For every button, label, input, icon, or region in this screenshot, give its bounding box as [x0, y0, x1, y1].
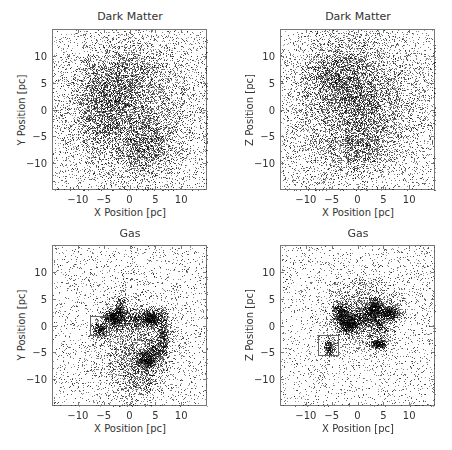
x-tick-label: −5	[324, 410, 339, 421]
y-tick-label: 5	[253, 293, 275, 304]
x-tick-mark	[383, 402, 384, 405]
x-tick-label: 0	[354, 410, 360, 421]
x-tick-mark	[181, 246, 182, 249]
y-tick-label: 5	[25, 77, 47, 88]
x-axis-title: X Position [pc]	[94, 207, 166, 218]
y-tick-mark	[431, 299, 434, 300]
x-tick-label: 5	[152, 194, 158, 205]
y-tick-label: −10	[253, 158, 275, 169]
y-tick-mark	[53, 136, 56, 137]
y-tick-mark	[203, 110, 206, 111]
x-tick-label: 0	[126, 194, 132, 205]
y-tick-mark	[431, 163, 434, 164]
y-tick-mark	[53, 163, 56, 164]
x-tick-mark	[78, 186, 79, 189]
y-tick-mark	[203, 326, 206, 327]
x-tick-label: 0	[354, 194, 360, 205]
x-tick-mark	[181, 30, 182, 33]
x-tick-mark	[130, 402, 131, 405]
y-tick-mark	[281, 110, 284, 111]
x-tick-mark	[155, 30, 156, 33]
y-tick-label: 5	[25, 293, 47, 304]
plot-area	[52, 29, 207, 190]
x-tick-mark	[358, 186, 359, 189]
y-tick-mark	[203, 379, 206, 380]
x-tick-mark	[104, 246, 105, 249]
x-tick-label: 5	[380, 410, 386, 421]
x-tick-mark	[130, 30, 131, 33]
x-tick-mark	[409, 186, 410, 189]
y-tick-mark	[281, 379, 284, 380]
y-tick-mark	[431, 83, 434, 84]
x-tick-mark	[181, 402, 182, 405]
x-tick-mark	[155, 246, 156, 249]
scatter-points	[281, 246, 436, 407]
x-tick-mark	[78, 246, 79, 249]
x-tick-mark	[358, 246, 359, 249]
y-tick-label: 10	[253, 50, 275, 61]
y-tick-label: −5	[253, 131, 275, 142]
y-tick-mark	[203, 163, 206, 164]
x-tick-mark	[155, 186, 156, 189]
x-tick-mark	[78, 402, 79, 405]
x-tick-mark	[409, 246, 410, 249]
y-tick-mark	[431, 352, 434, 353]
x-tick-mark	[104, 402, 105, 405]
y-tick-mark	[281, 163, 284, 164]
x-tick-mark	[130, 186, 131, 189]
y-tick-label: −10	[25, 374, 47, 385]
x-tick-mark	[306, 186, 307, 189]
y-tick-mark	[53, 110, 56, 111]
x-tick-mark	[332, 402, 333, 405]
x-tick-label: 5	[152, 410, 158, 421]
x-tick-mark	[155, 402, 156, 405]
y-tick-mark	[431, 110, 434, 111]
y-tick-label: −5	[25, 347, 47, 358]
scatter-points	[281, 30, 436, 191]
x-tick-mark	[409, 402, 410, 405]
y-tick-mark	[281, 56, 284, 57]
x-tick-label: −5	[96, 194, 111, 205]
y-tick-mark	[53, 352, 56, 353]
y-tick-mark	[431, 272, 434, 273]
y-tick-label: −10	[253, 374, 275, 385]
y-tick-label: 5	[253, 77, 275, 88]
scatter-points	[53, 246, 208, 407]
y-tick-mark	[53, 83, 56, 84]
x-axis-title: X Position [pc]	[322, 423, 394, 434]
x-tick-label: 10	[403, 194, 416, 205]
y-tick-label: 0	[25, 104, 47, 115]
x-tick-label: 5	[380, 194, 386, 205]
y-tick-mark	[53, 326, 56, 327]
y-tick-mark	[281, 136, 284, 137]
x-tick-mark	[383, 246, 384, 249]
plot-title: Dark Matter	[97, 10, 163, 23]
y-tick-label: 0	[253, 104, 275, 115]
y-tick-mark	[431, 136, 434, 137]
x-tick-mark	[332, 186, 333, 189]
y-tick-mark	[53, 379, 56, 380]
scatter-points	[53, 30, 208, 191]
x-tick-mark	[358, 30, 359, 33]
plot-area	[280, 245, 435, 406]
x-tick-label: −5	[324, 194, 339, 205]
y-tick-mark	[431, 56, 434, 57]
x-tick-mark	[306, 30, 307, 33]
y-tick-mark	[281, 299, 284, 300]
x-tick-mark	[78, 30, 79, 33]
y-tick-mark	[431, 379, 434, 380]
y-tick-mark	[203, 352, 206, 353]
x-axis-title: X Position [pc]	[94, 423, 166, 434]
x-tick-mark	[306, 246, 307, 249]
y-tick-label: 0	[25, 320, 47, 331]
x-tick-label: 10	[175, 410, 188, 421]
x-tick-label: −10	[295, 410, 316, 421]
plot-title: Gas	[348, 227, 369, 240]
y-tick-mark	[203, 299, 206, 300]
y-tick-label: −5	[25, 131, 47, 142]
y-tick-mark	[281, 352, 284, 353]
x-tick-mark	[358, 402, 359, 405]
y-tick-mark	[203, 272, 206, 273]
x-tick-mark	[383, 186, 384, 189]
y-tick-mark	[281, 326, 284, 327]
